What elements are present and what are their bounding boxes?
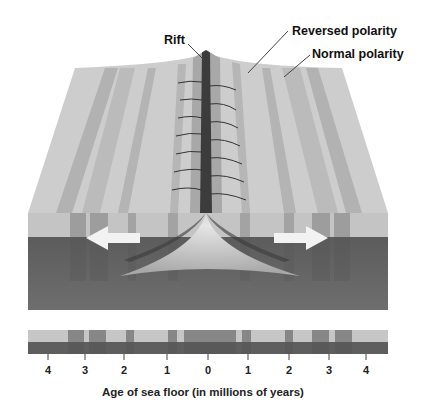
tick-label: 1	[157, 364, 177, 376]
seafloor-spreading-diagram	[0, 0, 427, 408]
normal-polarity-label: Normal polarity	[312, 47, 404, 61]
tick-label: 2	[114, 364, 134, 376]
reversed-polarity-label: Reversed polarity	[292, 24, 397, 38]
tick-label: 3	[75, 364, 95, 376]
rift-label: Rift	[164, 33, 185, 47]
tick-label: 3	[319, 364, 339, 376]
tick-label: 2	[279, 364, 299, 376]
ocean-floor-surface	[0, 40, 427, 220]
tick-label: 1	[238, 364, 258, 376]
tick-label: 0	[198, 364, 218, 376]
axis-caption: Age of sea floor (in millions of years)	[102, 386, 304, 398]
tick-label: 4	[38, 364, 58, 376]
tick-label: 4	[356, 364, 376, 376]
magnetic-strip-bar	[28, 330, 388, 360]
crust-cross-section	[28, 213, 388, 310]
